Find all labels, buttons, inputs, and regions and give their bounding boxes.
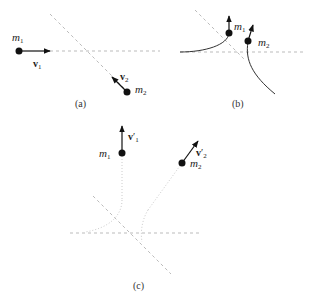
label-m1: m1: [12, 31, 24, 45]
label-v1: v1: [33, 58, 42, 71]
m2-path-line: [50, 14, 127, 91]
label-v1-prime: v′1: [128, 131, 139, 144]
m1-curved-path: [85, 200, 122, 232]
m2-outgoing-path: [148, 163, 182, 210]
label-m1: m1: [234, 20, 246, 34]
caption-a: (a): [75, 98, 86, 110]
panel-a: m1 v1 v2 m2 (a): [12, 14, 160, 110]
label-m1: m1: [99, 147, 111, 161]
m1-trajectory: [180, 33, 229, 52]
label-v2: v2: [120, 71, 129, 84]
m2-curved-path: [141, 210, 148, 242]
caption-b: (b): [232, 98, 244, 110]
label-m2: m2: [190, 157, 202, 171]
collision-diagram: m1 v1 v2 m2 (a) m1 m2 (b) v′1 m1 v′2 m2 …: [0, 0, 315, 304]
panel-b: m1 m2 (b): [180, 10, 305, 110]
label-m2: m2: [135, 83, 147, 97]
panel-c: v′1 m1 v′2 m2 (c): [70, 126, 207, 292]
label-m2: m2: [258, 36, 270, 50]
caption-c: (c): [133, 280, 144, 292]
diagonal-asymptote: [93, 196, 171, 274]
diagonal-asymptote: [195, 10, 245, 60]
m2-trajectory: [247, 42, 275, 94]
